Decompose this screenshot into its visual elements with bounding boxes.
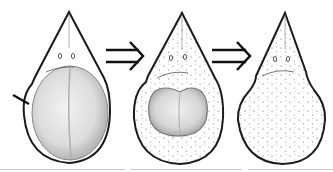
stage-2-seed — [134, 13, 223, 164]
baseline-divider-2 — [130, 169, 242, 170]
double-arrow-icon-1 — [106, 42, 143, 70]
stage-1-seed — [24, 12, 110, 163]
stage-2-inner-body — [149, 88, 208, 136]
double-arrow-icon-2 — [212, 42, 250, 70]
diagram-canvas — [0, 0, 333, 172]
baseline-divider-1 — [0, 169, 125, 170]
baseline-divider-3 — [248, 169, 333, 170]
stage-3-seed — [238, 13, 325, 164]
